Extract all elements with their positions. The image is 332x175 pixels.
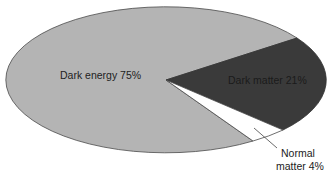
label-normal-matter-line1: Normal xyxy=(281,147,315,159)
pie-chart: Dark energy 75% Dark matter 21% Normal m… xyxy=(0,0,332,175)
label-dark-matter: Dark matter 21% xyxy=(228,74,307,86)
label-normal-matter-line2: matter 4% xyxy=(276,160,324,172)
label-dark-energy: Dark energy 75% xyxy=(60,69,141,81)
